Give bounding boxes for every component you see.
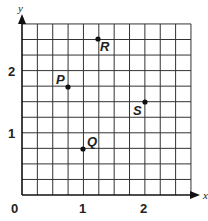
point-label-Q: Q bbox=[87, 134, 97, 149]
point-label-P: P bbox=[56, 72, 65, 87]
y-axis-label: y bbox=[17, 2, 23, 14]
origin-label: 0 bbox=[11, 201, 18, 216]
point-marker bbox=[142, 99, 147, 104]
point-marker bbox=[80, 146, 85, 151]
x-axis-label: x bbox=[202, 189, 208, 201]
x-tick-2: 2 bbox=[140, 201, 147, 216]
y-axis-arrow-icon bbox=[18, 14, 26, 24]
x-axis bbox=[22, 191, 200, 199]
y-tick-1: 1 bbox=[8, 126, 15, 141]
x-tick-1: 1 bbox=[79, 201, 86, 216]
point-Q: Q bbox=[80, 134, 97, 152]
y-axis bbox=[18, 14, 26, 195]
point-marker bbox=[65, 84, 70, 89]
point-R: R bbox=[95, 36, 110, 54]
x-axis-arrow-icon bbox=[190, 191, 200, 199]
point-label-S: S bbox=[133, 103, 142, 118]
coordinate-grid: y x 0 1 2 1 2 P Q R S bbox=[0, 0, 208, 221]
point-label-R: R bbox=[100, 39, 110, 54]
y-tick-2: 2 bbox=[8, 64, 15, 79]
point-S: S bbox=[133, 99, 148, 118]
